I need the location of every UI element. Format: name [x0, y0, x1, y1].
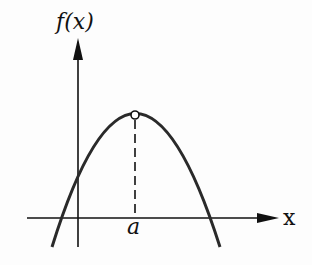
- y-axis-arrow-icon: [73, 38, 83, 60]
- x-axis-arrow-icon: [257, 213, 279, 223]
- parabola-diagram: f(x) x a: [0, 0, 312, 265]
- y-axis-label: f(x): [54, 9, 94, 34]
- vertex-open-circle: [131, 111, 139, 119]
- x-axis-label: x: [283, 205, 296, 230]
- diagram-canvas: f(x) x a: [0, 0, 312, 265]
- vertex-x-label: a: [127, 214, 140, 239]
